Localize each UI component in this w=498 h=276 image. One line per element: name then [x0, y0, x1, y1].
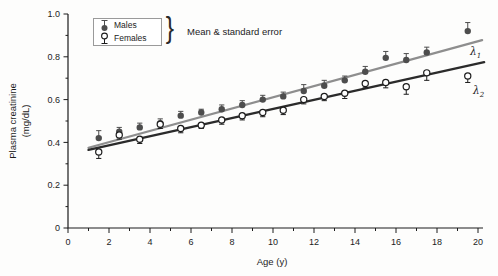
x-tick-label: 6 [188, 237, 193, 247]
female-point [239, 113, 245, 119]
legend-note: Mean & standard error [187, 26, 282, 37]
male-point [198, 109, 204, 115]
female-point [198, 122, 204, 128]
male-point [239, 102, 245, 108]
male-point [465, 28, 471, 34]
x-tick-label: 12 [309, 237, 319, 247]
legend-label-females: Females [114, 34, 147, 43]
x-tick-label: 18 [432, 237, 442, 247]
figure: 00.20.40.60.81.002468101214161820 Age (y… [0, 0, 498, 276]
female-point [116, 132, 122, 138]
x-axis-title: Age (y) [257, 256, 288, 267]
female-point [465, 73, 471, 79]
male-point [383, 55, 389, 61]
female-point [383, 79, 389, 85]
lambda2-label: λ2 [472, 84, 485, 99]
x-tick-label: 8 [229, 237, 234, 247]
female-point [157, 121, 163, 127]
female-point [424, 70, 430, 76]
legend-item-females: Females [99, 33, 161, 45]
x-tick-label: 0 [65, 237, 70, 247]
x-tick-label: 20 [473, 237, 483, 247]
male-point [301, 88, 307, 94]
legend-box: Males Females [93, 18, 162, 46]
male-point [321, 82, 327, 88]
axis-lines [68, 14, 483, 228]
female-point [280, 107, 286, 113]
male-point [178, 112, 184, 118]
x-tick-label: 14 [350, 237, 360, 247]
lambda1-label: λ1 [469, 45, 481, 60]
female-marker-icon [99, 32, 110, 45]
y-axis-title-line1: Plasma creatinine [7, 83, 18, 159]
female-point [219, 117, 225, 123]
female-point [362, 80, 368, 86]
male-point [362, 69, 368, 75]
female-point [96, 149, 102, 155]
female-point [137, 136, 143, 142]
legend-label-males: Males [114, 21, 137, 30]
x-tick-label: 2 [106, 237, 111, 247]
lambda1-line [89, 40, 483, 148]
male-point [342, 77, 348, 83]
y-tick-label: 0.2 [47, 180, 60, 190]
y-tick-label: 0.6 [47, 95, 60, 105]
y-tick-label: 1.0 [47, 9, 60, 19]
chart-canvas: 00.20.40.60.81.002468101214161820 Age (y… [0, 0, 498, 276]
x-tick-label: 10 [268, 237, 278, 247]
female-point [342, 90, 348, 96]
y-tick-label: 0 [55, 223, 60, 233]
female-point [301, 97, 307, 103]
legend-brace: } [166, 14, 174, 43]
male-point [260, 96, 266, 102]
male-point [137, 124, 143, 130]
y-tick-label: 0.8 [47, 52, 60, 62]
y-axis-title-line2: (mg/dL) [20, 105, 31, 138]
female-point [403, 84, 409, 90]
male-point [403, 57, 409, 63]
x-tick-label: 16 [391, 237, 401, 247]
male-point [424, 49, 430, 55]
legend-item-males: Males [99, 20, 161, 32]
x-tick-label: 4 [147, 237, 152, 247]
male-point [219, 106, 225, 112]
male-point [96, 135, 102, 141]
female-point [321, 93, 327, 99]
male-marker-icon [99, 19, 110, 32]
female-point [260, 109, 266, 115]
female-point [178, 125, 184, 131]
male-point [280, 93, 286, 99]
y-tick-label: 0.4 [47, 138, 60, 148]
